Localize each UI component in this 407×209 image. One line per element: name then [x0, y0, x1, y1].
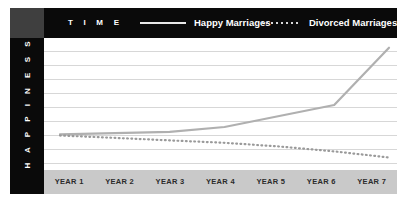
series-line-happy-marriages	[60, 48, 389, 135]
time-logo: T I M E	[68, 17, 123, 28]
x-tick-year-5: YEAR 5	[246, 177, 296, 187]
legend-swatch-dotted-icon	[261, 22, 301, 24]
x-axis-band: YEAR 1 YEAR 2 YEAR 3 YEAR 4 YEAR 5 YEAR …	[44, 170, 397, 194]
x-tick-year-3: YEAR 3	[145, 177, 195, 187]
x-tick-year-1: YEAR 1	[44, 177, 94, 187]
plot-series-svg	[44, 38, 397, 170]
y-axis-sidebar: H A P P I N E S S	[10, 38, 44, 194]
x-tick-year-6: YEAR 6	[296, 177, 346, 187]
series-line-divorced-marriages	[60, 136, 389, 158]
plot-area	[44, 38, 397, 170]
x-tick-year-4: YEAR 4	[195, 177, 245, 187]
x-tick-year-7: YEAR 7	[347, 177, 397, 187]
legend-label-divorced-marriages: Divorced Marriages	[309, 17, 397, 29]
chart-header: T I M E Happy Marriages Divorced Marriag…	[44, 8, 397, 38]
y-axis-title: H A P P I N E S S	[23, 33, 33, 173]
legend-label-happy-marriages: Happy Marriages	[194, 17, 271, 29]
x-tick-year-2: YEAR 2	[94, 177, 144, 187]
chart-figure: T I M E Happy Marriages Divorced Marriag…	[10, 8, 397, 194]
legend-swatch-solid-icon	[140, 22, 186, 24]
